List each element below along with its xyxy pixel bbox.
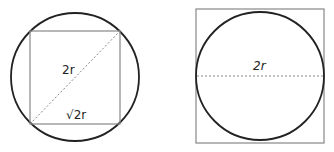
- left-figure: 2r √2r: [11, 13, 139, 141]
- side-label: √2r: [66, 108, 86, 122]
- right-figure: 2r: [196, 9, 324, 143]
- diameter-label: 2r: [253, 59, 267, 73]
- diagram-canvas: 2r √2r 2r: [0, 0, 334, 152]
- right-circle: [196, 12, 324, 140]
- diagonal-label: 2r: [62, 63, 75, 77]
